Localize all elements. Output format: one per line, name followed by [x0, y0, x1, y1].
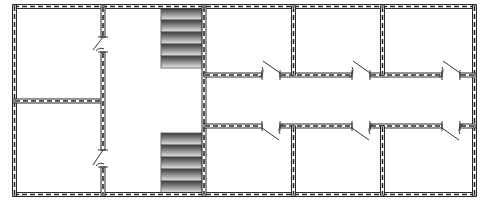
wall-corr-top-1 [204, 73, 262, 77]
wall-corr-bot-1 [204, 124, 262, 128]
wall-left-mid [14, 99, 104, 103]
wall-corr-top-2 [280, 73, 352, 77]
stair-step [161, 44, 202, 56]
wall-left-vert-c [101, 167, 105, 195]
stair-step [161, 181, 202, 193]
stair-step [161, 169, 202, 181]
stair-step [161, 20, 202, 32]
floor-plan [0, 0, 482, 206]
wall-outer-right [473, 5, 477, 196]
stair-step [161, 145, 202, 157]
wall-room-div-bot-2 [381, 126, 385, 195]
stair-step [161, 56, 202, 68]
wall-room-div-top-1 [292, 6, 296, 75]
wall-corr-top-4 [460, 73, 475, 77]
wall-left-vert-b [101, 52, 105, 150]
stair-step [161, 8, 202, 20]
wall-room-div-bot-1 [292, 126, 296, 195]
wall-stair-wall [202, 6, 206, 195]
stairs-bottom [161, 133, 202, 193]
wall-corr-bot-2 [280, 124, 352, 128]
wall-outer-top [13, 5, 476, 9]
stairs-top [161, 8, 202, 68]
stair-step [161, 32, 202, 44]
wall-room-div-top-2 [381, 6, 385, 75]
stair-step [161, 133, 202, 145]
wall-outer-bottom [13, 193, 476, 197]
wall-left-vert-a [101, 6, 105, 37]
stair-step [161, 157, 202, 169]
